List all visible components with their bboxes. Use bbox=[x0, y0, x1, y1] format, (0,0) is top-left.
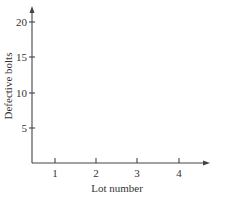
y-tick-label: 10 bbox=[16, 87, 28, 99]
x-tick-label: 2 bbox=[93, 167, 99, 179]
y-axis bbox=[29, 10, 35, 163]
chart: 20 15 10 5 1 2 3 4 Lot number Defective … bbox=[0, 0, 228, 206]
x-axis-arrow-icon bbox=[203, 161, 210, 166]
y-tick-label: 5 bbox=[22, 122, 28, 134]
y-tick-label: 20 bbox=[16, 16, 28, 28]
x-axis-title: Lot number bbox=[91, 182, 143, 194]
y-axis-arrow-icon bbox=[30, 6, 35, 13]
x-tick-label: 4 bbox=[176, 167, 182, 179]
y-tick-label: 15 bbox=[16, 51, 28, 63]
x-tick-label: 3 bbox=[134, 167, 140, 179]
x-axis bbox=[32, 158, 206, 163]
y-axis-title: Defective bolts bbox=[2, 53, 14, 120]
x-tick-label: 1 bbox=[52, 167, 58, 179]
